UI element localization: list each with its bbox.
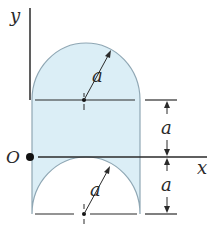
dim-upper-arrow-bottom — [164, 149, 170, 156]
lower-radius-arrowhead — [104, 166, 110, 174]
area-diagram: y x O a a a a — [0, 0, 223, 240]
upper-radius-label: a — [92, 65, 103, 86]
origin-dot — [26, 153, 34, 161]
dim-lower-arrow-bottom — [164, 206, 170, 213]
dim-upper-arrow-top — [164, 101, 170, 108]
lower-radius-label: a — [90, 179, 101, 200]
dim-upper-label: a — [161, 117, 172, 138]
shaded-area — [32, 43, 140, 214]
origin-label: O — [6, 147, 20, 167]
dim-lower-label: a — [161, 174, 172, 195]
y-axis-label: y — [9, 5, 21, 26]
x-axis-label: x — [197, 157, 207, 178]
dim-lower-arrow-top — [164, 158, 170, 165]
